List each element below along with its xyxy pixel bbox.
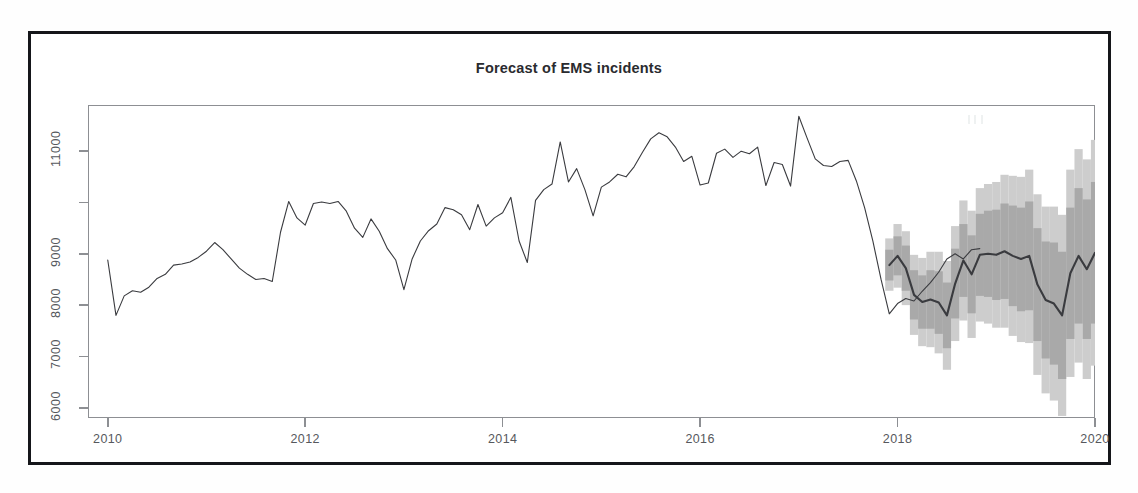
y-tick-label: 6000 [38,399,74,413]
x-tick-mark [699,418,701,427]
y-tick-label: 8000 [38,296,74,310]
x-tick-label: 2014 [488,432,517,446]
forecast-plot [88,105,1095,418]
screenshot-root: Forecast of EMS incidents 60007000800090… [0,0,1138,493]
x-tick-label: 2012 [290,432,319,446]
y-tick-mark [79,253,88,255]
x-tick-label: 2020 [1080,432,1109,446]
x-tick-mark [897,418,899,427]
scan-speckle-artifact [968,115,990,124]
y-tick-label: 7000 [38,347,74,361]
x-tick-mark [502,418,504,427]
x-tick-label: 2010 [93,432,122,446]
x-tick-label: 2018 [883,432,912,446]
x-tick-mark [304,418,306,427]
x-tick-label: 2016 [685,432,714,446]
y-tick-label: 11000 [38,142,74,156]
y-tick-mark [79,202,88,204]
observed-series-line [108,116,980,315]
y-tick-mark [79,304,88,306]
y-tick-mark [79,356,88,358]
x-tick-mark [1094,418,1096,427]
x-tick-mark [107,418,109,427]
y-tick-mark [79,407,88,409]
y-tick-mark [79,150,88,152]
chart-title: Forecast of EMS incidents [0,60,1138,76]
y-tick-label: 9000 [38,245,74,259]
